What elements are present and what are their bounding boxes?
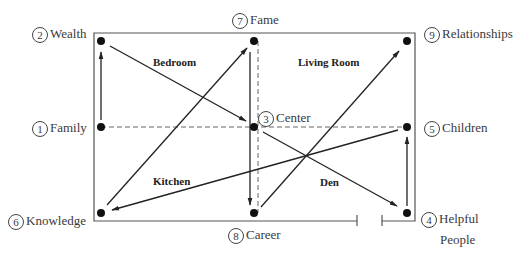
dot-career	[250, 209, 258, 217]
number-badge: 5	[424, 121, 440, 137]
label-helpful-people-line2: People	[440, 232, 475, 247]
dot-family	[97, 123, 105, 131]
number-badge: 3	[258, 111, 274, 127]
label-fame: 7Fame	[232, 12, 279, 29]
label-family: 1Family	[32, 120, 87, 137]
label-helpful-people: 4Helpful	[421, 211, 479, 228]
arrow-children-to-knowledge	[112, 130, 398, 210]
dot-knowledge	[97, 209, 105, 217]
dot-relationships	[403, 37, 411, 45]
room-den: Den	[320, 176, 339, 188]
number-badge: 9	[424, 27, 440, 43]
number-badge: 7	[232, 13, 248, 29]
dot-helpful-people	[403, 209, 411, 217]
label-relationships: 9Relationships	[424, 26, 513, 43]
room-living-room: Living Room	[298, 56, 359, 68]
number-badge: 1	[32, 121, 48, 137]
number-badge: 4	[421, 212, 437, 228]
room-kitchen: Kitchen	[153, 175, 190, 187]
number-badge: 6	[8, 214, 24, 230]
room-bedroom: Bedroom	[153, 56, 196, 68]
dot-fame	[250, 37, 258, 45]
label-center: 3Center	[258, 110, 311, 127]
dot-center	[250, 123, 258, 131]
dot-wealth	[97, 37, 105, 45]
label-children: 5Children	[424, 120, 488, 137]
label-knowledge: 6Knowledge	[8, 213, 86, 230]
arrow-center-to-helpful-people	[263, 132, 397, 206]
number-badge: 8	[228, 228, 244, 244]
dot-children	[403, 123, 411, 131]
label-career: 8Career	[228, 227, 281, 244]
number-badge: 2	[32, 27, 48, 43]
label-wealth: 2Wealth	[32, 26, 87, 43]
